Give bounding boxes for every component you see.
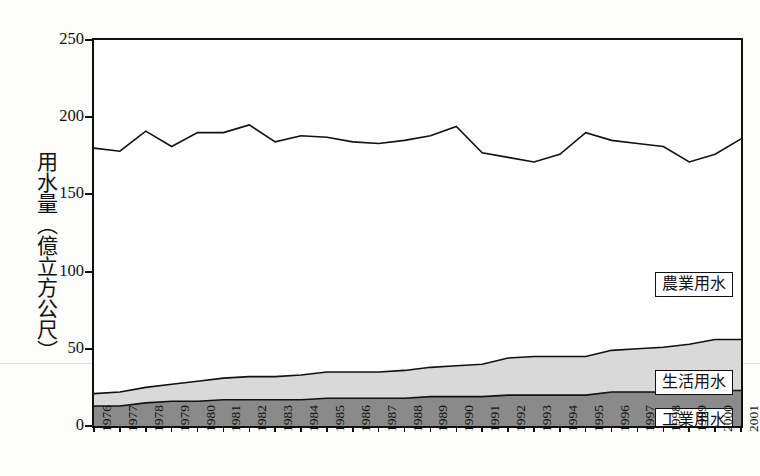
x-tick-1985: 1985 bbox=[332, 405, 348, 432]
x-tick-1986: 1986 bbox=[358, 405, 374, 432]
x-tick-1993: 1993 bbox=[539, 405, 555, 432]
x-tick-1992: 1992 bbox=[513, 405, 529, 432]
y-tickmark-150 bbox=[85, 193, 92, 195]
chart-page: 用水量（億立方公尺） 050100150200250 農業用水 生活用水 工業用… bbox=[0, 0, 760, 476]
x-tick-1994: 1994 bbox=[565, 405, 581, 432]
x-tickmark-1977 bbox=[119, 427, 121, 432]
x-tickmark-1984 bbox=[300, 427, 302, 432]
legend-agriculture-label: 農業用水 bbox=[662, 275, 726, 292]
x-tick-1982: 1982 bbox=[254, 405, 270, 432]
x-tickmark-1989 bbox=[430, 427, 432, 432]
x-tickmark-1995 bbox=[585, 427, 587, 432]
legend-agriculture: 農業用水 bbox=[655, 272, 733, 297]
plot-inner bbox=[94, 40, 741, 426]
y-tickmark-100 bbox=[85, 271, 92, 273]
plot-area: 農業用水 生活用水 工業用水 bbox=[92, 38, 743, 428]
x-tickmark-1980 bbox=[197, 427, 199, 432]
y-tick-250: 250 bbox=[38, 29, 84, 49]
legend-domestic: 生活用水 bbox=[655, 370, 733, 395]
x-tickmark-1993 bbox=[533, 427, 535, 432]
y-tick-150: 150 bbox=[38, 183, 84, 203]
y-tick-200: 200 bbox=[38, 106, 84, 126]
x-tickmark-1998 bbox=[663, 427, 665, 432]
x-tick-1991: 1991 bbox=[487, 405, 503, 432]
x-tick-1998: 1998 bbox=[668, 405, 684, 432]
x-tickmark-1983 bbox=[274, 427, 276, 432]
x-tick-1979: 1979 bbox=[177, 405, 193, 432]
x-tickmark-1981 bbox=[223, 427, 225, 432]
x-tickmark-1992 bbox=[507, 427, 509, 432]
x-tickmark-1997 bbox=[637, 427, 639, 432]
x-tickmark-1999 bbox=[688, 427, 690, 432]
x-tick-1989: 1989 bbox=[435, 405, 451, 432]
y-tickmark-50 bbox=[85, 348, 92, 350]
x-tick-1996: 1996 bbox=[617, 405, 633, 432]
x-tickmark-1988 bbox=[404, 427, 406, 432]
x-tick-1977: 1977 bbox=[125, 405, 141, 432]
y-tickmark-0 bbox=[85, 425, 92, 427]
x-tick-1976: 1976 bbox=[99, 405, 115, 432]
x-tickmark-2000 bbox=[714, 427, 716, 432]
x-tickmark-1982 bbox=[249, 427, 251, 432]
y-tickmark-200 bbox=[85, 116, 92, 118]
x-tick-1987: 1987 bbox=[384, 405, 400, 432]
x-tickmark-1985 bbox=[326, 427, 328, 432]
x-tick-2001: 2001 bbox=[746, 405, 760, 432]
legend-domestic-label: 生活用水 bbox=[662, 373, 726, 390]
x-tickmark-1991 bbox=[481, 427, 483, 432]
x-tickmark-1979 bbox=[171, 427, 173, 432]
x-tickmark-2001 bbox=[740, 427, 742, 432]
x-tick-1978: 1978 bbox=[151, 405, 167, 432]
x-tickmark-1976 bbox=[93, 427, 95, 432]
x-tick-1999: 1999 bbox=[694, 405, 710, 432]
x-tick-1997: 1997 bbox=[642, 405, 658, 432]
x-tickmark-1986 bbox=[352, 427, 354, 432]
y-tick-50: 50 bbox=[38, 338, 84, 358]
x-tick-1990: 1990 bbox=[461, 405, 477, 432]
y-tickmark-250 bbox=[85, 39, 92, 41]
x-tick-1981: 1981 bbox=[228, 405, 244, 432]
y-axis-title: 用水量（億立方公尺） bbox=[14, 96, 58, 416]
y-tick-100: 100 bbox=[38, 261, 84, 281]
x-tick-1983: 1983 bbox=[280, 405, 296, 432]
x-tickmark-1990 bbox=[456, 427, 458, 432]
x-tick-1995: 1995 bbox=[591, 405, 607, 432]
x-tickmark-1978 bbox=[145, 427, 147, 432]
x-tick-1980: 1980 bbox=[203, 405, 219, 432]
x-tickmark-1987 bbox=[378, 427, 380, 432]
x-tick-1984: 1984 bbox=[306, 405, 322, 432]
stacked-area-chart bbox=[94, 40, 741, 426]
x-tick-1988: 1988 bbox=[410, 405, 426, 432]
x-tickmark-1994 bbox=[559, 427, 561, 432]
y-tick-0: 0 bbox=[38, 415, 84, 435]
x-tick-2000: 2000 bbox=[720, 405, 736, 432]
x-tickmark-1996 bbox=[611, 427, 613, 432]
